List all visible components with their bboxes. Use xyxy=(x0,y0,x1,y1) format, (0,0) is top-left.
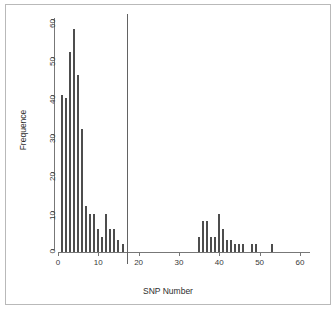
y-axis-tick-label: 60 xyxy=(49,19,57,28)
y-axis-tick-label: 40 xyxy=(49,95,57,104)
bar xyxy=(202,221,204,252)
bar xyxy=(238,244,240,252)
bar xyxy=(255,244,257,252)
bar xyxy=(206,221,208,252)
bar xyxy=(122,244,124,252)
y-axis-tick-label: 50 xyxy=(49,57,57,66)
x-axis-tick-label: 10 xyxy=(94,258,103,268)
bar xyxy=(230,240,232,252)
bar xyxy=(65,98,67,252)
bar xyxy=(109,229,111,252)
x-axis-tick-label: 30 xyxy=(175,258,184,268)
x-axis-tick-label: 40 xyxy=(215,258,224,268)
figure-container: Frequence 0102030405060 0102030405060 SN… xyxy=(0,0,336,310)
x-axis-tick-label: 50 xyxy=(255,258,264,268)
plot-area xyxy=(58,14,310,252)
bar xyxy=(73,29,75,252)
bar xyxy=(93,214,95,252)
threshold-line xyxy=(127,14,128,264)
bar xyxy=(271,244,273,252)
bar xyxy=(242,244,244,252)
x-axis-tick xyxy=(98,252,99,256)
y-axis-title: Frequence xyxy=(18,110,28,151)
x-axis-tick xyxy=(219,252,220,256)
x-axis-tick-label: 60 xyxy=(295,258,304,268)
x-axis-tick xyxy=(58,252,59,256)
bar xyxy=(226,240,228,252)
bar xyxy=(198,237,200,252)
bar xyxy=(61,95,63,252)
bar xyxy=(101,237,103,252)
bar xyxy=(210,237,212,252)
bar xyxy=(117,240,119,252)
x-axis-tick-label: 20 xyxy=(134,258,143,268)
x-axis-title: SNP Number xyxy=(0,286,336,296)
bar xyxy=(105,214,107,252)
bar xyxy=(234,244,236,252)
bar xyxy=(222,229,224,252)
bar xyxy=(85,206,87,252)
y-axis-ticks: 0102030405060 xyxy=(40,10,55,260)
bar xyxy=(214,237,216,252)
x-axis-tick xyxy=(179,252,180,256)
bar xyxy=(97,229,99,252)
y-axis-tick-label: 30 xyxy=(49,134,57,143)
y-axis-tick-label: 0 xyxy=(49,249,57,253)
y-axis-tick-label: 20 xyxy=(49,172,57,181)
bar xyxy=(251,244,253,252)
x-axis-tick xyxy=(260,252,261,256)
x-axis-tick xyxy=(139,252,140,256)
bar xyxy=(89,214,91,252)
x-axis-ticks: 0102030405060 xyxy=(58,252,310,272)
y-axis-title-wrap: Frequence xyxy=(16,0,30,260)
x-axis-tick xyxy=(300,252,301,256)
bar xyxy=(218,214,220,252)
bar xyxy=(77,75,79,252)
y-axis-tick-label: 10 xyxy=(49,211,57,220)
x-axis-tick-label: 0 xyxy=(56,258,60,268)
bar xyxy=(69,52,71,252)
bar xyxy=(113,229,115,252)
bar xyxy=(81,129,83,252)
